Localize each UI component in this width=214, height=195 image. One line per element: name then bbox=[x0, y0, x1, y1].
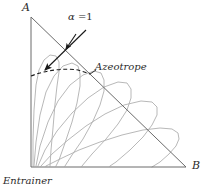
alpha-value: 1 bbox=[86, 11, 92, 22]
residue-curve bbox=[46, 128, 179, 167]
vertex-label-b: B bbox=[192, 160, 200, 171]
ternary-diagram-figure: A B Entrainer Azeotrope α =1 bbox=[0, 0, 214, 195]
alpha-unity-dashed-line bbox=[31, 69, 90, 76]
azeotrope-label: Azeotrope bbox=[95, 62, 147, 72]
residue-curve bbox=[38, 82, 131, 166]
alpha-unity-label: α =1 bbox=[68, 12, 93, 22]
triangle-edge-hypotenuse bbox=[31, 17, 186, 167]
vertex-label-entrainer: Entrainer bbox=[3, 176, 52, 186]
alpha-symbol: α = bbox=[68, 11, 86, 22]
triangle-outline bbox=[31, 17, 186, 167]
residue-curve bbox=[34, 63, 80, 166]
residue-curve bbox=[41, 101, 157, 166]
diagram-canvas bbox=[0, 0, 214, 195]
vertex-label-a: A bbox=[22, 2, 30, 13]
